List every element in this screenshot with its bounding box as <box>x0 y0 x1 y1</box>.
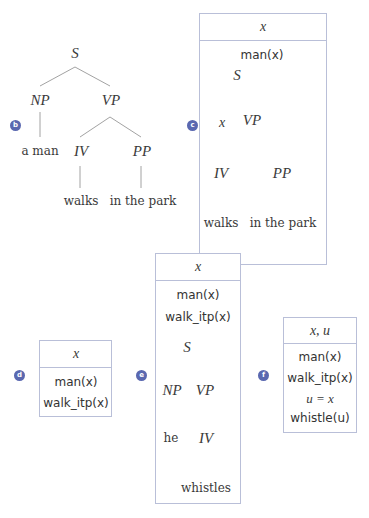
leaf-he: he <box>164 432 179 444</box>
leaf-in-the-park: in the park <box>250 217 317 229</box>
node-vp: VP <box>196 383 214 398</box>
node-s: S <box>71 46 79 61</box>
leaf-walks: walks <box>204 217 239 229</box>
leaf-whistles: whistles <box>181 482 231 494</box>
condition-walk-itp-x: walk_itp(x) <box>165 311 231 323</box>
node-np: NP <box>162 383 181 398</box>
condition-man-x: man(x) <box>240 49 283 61</box>
node-vp: VP <box>102 93 120 108</box>
drs-box-d: x man(x) walk_itp(x) <box>39 340 112 417</box>
universe-label: x <box>260 20 266 34</box>
node-iv: IV <box>74 144 88 159</box>
node-x: x <box>219 116 225 130</box>
universe-label: x, u <box>310 324 330 338</box>
panel-badge-f: f <box>258 370 269 381</box>
node-vp: VP <box>243 113 261 128</box>
universe-label: x <box>73 347 79 361</box>
leaf-a-man: a man <box>21 145 58 157</box>
drs-universe: x <box>156 254 240 281</box>
universe-label: x <box>195 260 201 274</box>
drs-universe: x, u <box>284 318 356 344</box>
panel-badge-b: b <box>10 120 21 131</box>
node-pp: PP <box>273 166 291 181</box>
condition-walk-itp-x: walk_itp(x) <box>43 397 109 409</box>
node-iv: IV <box>214 166 228 181</box>
leaf-in-the-park: in the park <box>110 195 177 207</box>
node-s: S <box>233 68 241 83</box>
drs-box-f: x, u man(x) walk_itp(x) u = x whistle(u) <box>283 317 357 433</box>
drs-universe: x <box>200 14 326 41</box>
panel-badge-e: e <box>136 370 147 381</box>
panel-badge-c: c <box>187 120 198 131</box>
condition-u-equals-x: u = x <box>306 392 334 405</box>
node-s: S <box>183 340 191 355</box>
node-iv: IV <box>199 431 213 446</box>
panel-badge-d: d <box>14 370 25 381</box>
drs-universe: x <box>40 341 111 368</box>
node-pp: PP <box>133 144 151 159</box>
leaf-walks: walks <box>64 195 99 207</box>
node-np: NP <box>30 93 49 108</box>
condition-man-x: man(x) <box>298 351 341 363</box>
condition-man-x: man(x) <box>54 376 97 388</box>
condition-man-x: man(x) <box>176 289 219 301</box>
condition-walk-itp-x: walk_itp(x) <box>287 372 353 384</box>
condition-whistle-u: whistle(u) <box>290 412 349 424</box>
